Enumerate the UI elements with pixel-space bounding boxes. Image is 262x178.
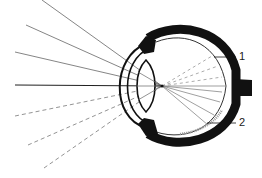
focal-point [160, 84, 163, 87]
eye-diagram-svg [0, 0, 262, 178]
optic-nerve [234, 79, 252, 96]
label-2: 2 [239, 117, 245, 128]
eye-diagram: 1 2 [0, 0, 262, 178]
focused-dashed-rays [162, 56, 222, 86]
label-1: 1 [239, 51, 245, 62]
iris-bottom [138, 118, 158, 136]
